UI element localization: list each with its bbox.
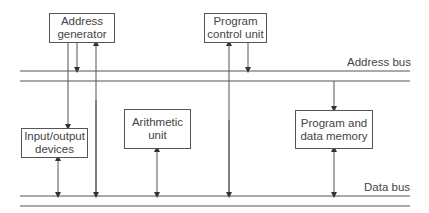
address-bus xyxy=(20,71,410,81)
program-control-unit-block: Program control unit xyxy=(204,13,267,43)
data-bus-label: Data bus xyxy=(364,181,410,193)
arithmetic-unit-line2: unit xyxy=(132,129,183,142)
data-bus xyxy=(20,196,410,206)
io-devices-line2: devices xyxy=(24,143,85,156)
arithmetic-unit-block: Arithmetic unit xyxy=(124,109,191,149)
address-generator-line2: generator xyxy=(57,28,106,41)
address-generator-block: Address generator xyxy=(49,13,115,43)
memory-line2: data memory xyxy=(300,130,367,143)
processor-architecture-diagram: Address generator Program control unit I… xyxy=(0,0,429,213)
program-control-unit-line2: control unit xyxy=(207,28,263,41)
arithmetic-unit-line1: Arithmetic xyxy=(132,116,183,129)
io-devices-line1: Input/output xyxy=(24,130,85,143)
memory-line1: Program and xyxy=(300,117,367,130)
program-control-unit-line1: Program xyxy=(207,15,263,28)
address-bus-label: Address bus xyxy=(347,56,411,68)
io-devices-block: Input/output devices xyxy=(21,128,88,158)
address-generator-line1: Address xyxy=(57,15,106,28)
program-data-memory-block: Program and data memory xyxy=(295,110,373,149)
